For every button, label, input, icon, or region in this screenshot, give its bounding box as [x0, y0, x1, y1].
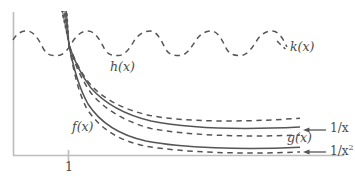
- curve-h: [69, 45, 300, 128]
- curve-k-tail: [277, 41, 286, 49]
- label-g-of-x: g(x): [287, 132, 312, 145]
- curve-family-right: [69, 45, 300, 153]
- curve-k-path: [13, 31, 287, 56]
- label-f-of-x: f(x): [72, 121, 93, 134]
- label-one-over-x: 1/x: [330, 122, 348, 134]
- curve-k: [13, 31, 287, 56]
- label-k-of-x: k(x): [290, 41, 314, 54]
- arrow-1overx2: [303, 149, 326, 154]
- chart-canvas: [0, 0, 355, 177]
- label-one-over-x-squared: 1/x2: [330, 144, 354, 157]
- label-one-over-x-squared-base: 1/x: [330, 144, 348, 158]
- label-h-of-x: h(x): [110, 61, 135, 74]
- curve-1overx: [69, 45, 300, 121]
- figure-chart-asymptotic-curves: k(x) h(x) f(x) g(x) 1/x 1/x2 1: [0, 0, 355, 177]
- x-axis-tick-label-1: 1: [65, 161, 73, 174]
- label-one-over-x-squared-exponent: 2: [348, 143, 353, 152]
- curve-left-branches: [62, 11, 69, 45]
